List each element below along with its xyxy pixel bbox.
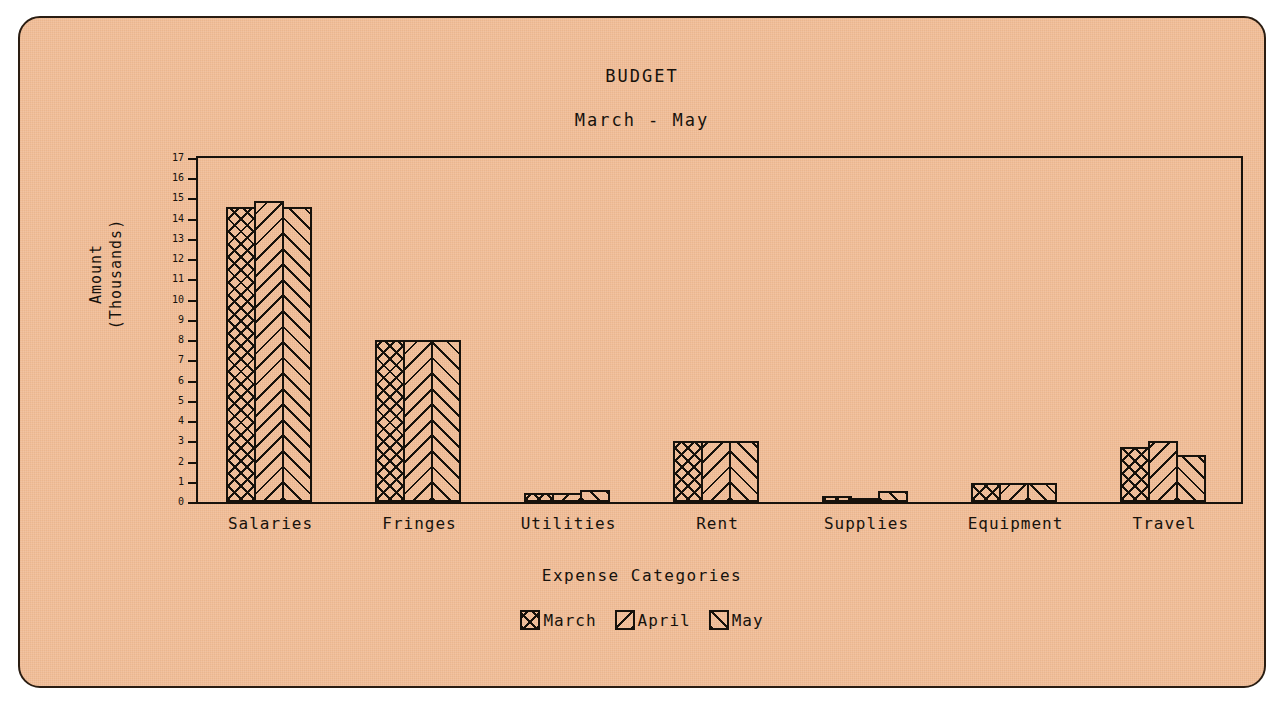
y-axis-tick-label: 1: [178, 477, 184, 487]
bar-group: [673, 158, 763, 502]
y-axis-tick-label: 0: [178, 497, 184, 507]
y-axis-tick-label: 12: [172, 254, 184, 264]
bar: [524, 493, 554, 502]
legend-item[interactable]: March: [520, 610, 596, 630]
y-axis-tick-label: 15: [172, 193, 184, 203]
chart-title: BUDGET: [20, 66, 1264, 86]
bar-group: [226, 158, 316, 502]
y-axis-tick-label: 9: [178, 315, 184, 325]
y-axis-tick-label: 8: [178, 335, 184, 345]
bar-groups: [196, 158, 1239, 502]
legend-item[interactable]: May: [709, 610, 764, 630]
y-axis-title: Amount (Thousands): [86, 174, 126, 374]
x-axis-category-label: Supplies: [824, 514, 909, 533]
legend-label: March: [543, 611, 596, 630]
screenshot-canvas: BUDGET March - May Amount (Thousands) 01…: [0, 0, 1287, 720]
legend-swatch-icon: [615, 610, 635, 630]
y-axis-tick-label: 5: [178, 396, 184, 406]
x-axis-category-label: Equipment: [968, 514, 1064, 533]
bar: [1120, 447, 1150, 502]
bar: [1148, 441, 1178, 502]
bar: [850, 498, 880, 502]
legend-label: April: [638, 611, 691, 630]
x-axis-category-label: Fringes: [382, 514, 456, 533]
bar: [254, 201, 284, 503]
bar: [701, 441, 731, 502]
legend-item[interactable]: April: [615, 610, 691, 630]
chart-legend: MarchAprilMay: [20, 610, 1264, 630]
bar: [1176, 455, 1206, 502]
y-axis-tick-label: 2: [178, 457, 184, 467]
y-axis-tick-label: 10: [172, 295, 184, 305]
x-axis-title: Expense Categories: [20, 566, 1264, 585]
bar-group: [822, 158, 912, 502]
bar: [1027, 483, 1057, 502]
x-axis-category-label: Travel: [1133, 514, 1197, 533]
y-axis-tick-label: 7: [178, 355, 184, 365]
bar-group: [524, 158, 614, 502]
bar: [971, 483, 1001, 502]
bar-group: [971, 158, 1061, 502]
y-axis-tick-label: 4: [178, 416, 184, 426]
y-axis-tick-label: 11: [172, 274, 184, 284]
bar: [403, 340, 433, 502]
bar: [375, 340, 405, 502]
x-axis-category-label: Salaries: [228, 514, 313, 533]
bar: [822, 496, 852, 502]
bar: [552, 493, 582, 502]
x-axis-baseline: [196, 502, 1243, 504]
chart-card: BUDGET March - May Amount (Thousands) 01…: [18, 16, 1266, 688]
y-axis-tick-label: 13: [172, 234, 184, 244]
bar: [729, 441, 759, 502]
bar: [999, 483, 1029, 502]
bar: [431, 340, 461, 502]
y-axis-tick-label: 17: [172, 153, 184, 163]
legend-label: May: [732, 611, 764, 630]
legend-swatch-icon: [520, 610, 540, 630]
legend-swatch-icon: [709, 610, 729, 630]
y-axis-tick-label: 6: [178, 376, 184, 386]
bar: [226, 207, 256, 502]
y-axis-title-line2: (Thousands): [107, 219, 125, 329]
y-axis-tick-labels: 01234567891011121314151617: [140, 156, 186, 504]
y-axis-title-line1: Amount: [87, 244, 105, 304]
bar: [282, 207, 312, 502]
x-axis-category-label: Utilities: [521, 514, 617, 533]
bar: [878, 491, 908, 502]
bar-group: [375, 158, 465, 502]
chart-subtitle: March - May: [20, 110, 1264, 130]
y-axis-tick-label: 14: [172, 214, 184, 224]
x-axis-category-label: Rent: [696, 514, 739, 533]
y-axis-tick-label: 16: [172, 173, 184, 183]
bar: [580, 490, 610, 502]
bar: [673, 441, 703, 502]
y-axis-tick-label: 3: [178, 436, 184, 446]
bar-group: [1120, 158, 1210, 502]
